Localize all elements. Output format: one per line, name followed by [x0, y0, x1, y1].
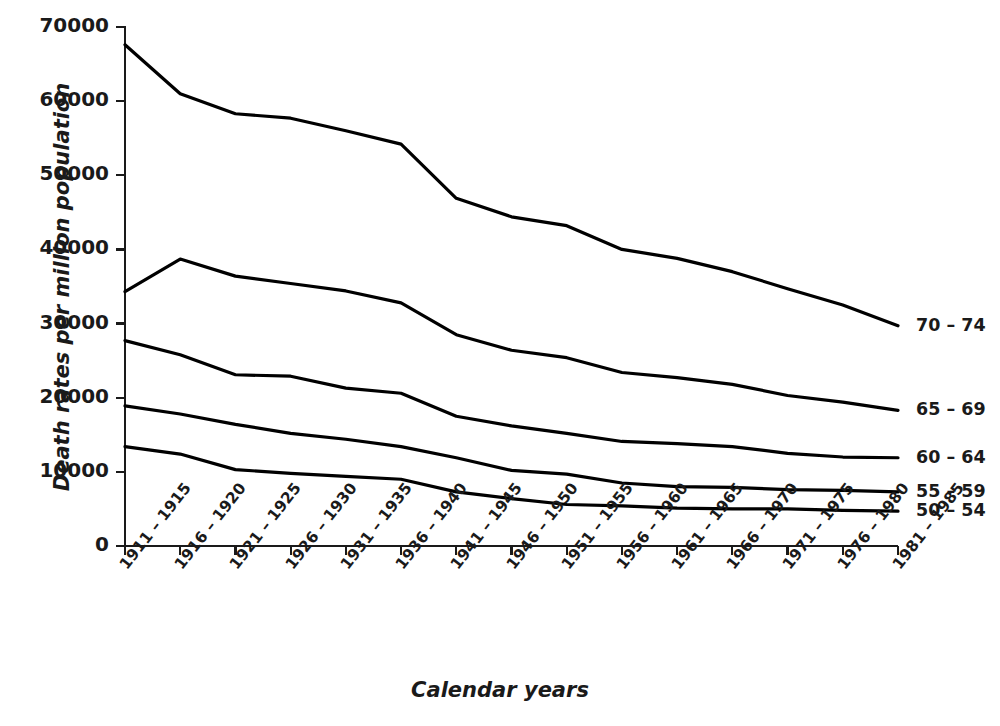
x-axis-title: Calendar years	[0, 678, 1000, 702]
series-label-70-74: 70 – 74	[916, 315, 986, 335]
series-label-55-59: 55 – 59	[916, 481, 986, 501]
y-tick-label-0: 0	[95, 532, 109, 556]
y-tick-label-10000: 10000	[39, 458, 109, 482]
y-tick-label-30000: 30000	[39, 310, 109, 334]
series-line-60-64	[125, 341, 898, 458]
y-tick-label-60000: 60000	[39, 87, 109, 111]
series-label-50-54: 50 – 54	[916, 500, 986, 520]
y-axis-title: Death rates per million population	[50, 47, 74, 527]
line-chart-plot	[0, 0, 1000, 726]
series-label-60-64: 60 – 64	[916, 447, 986, 467]
y-tick-label-70000: 70000	[39, 13, 109, 37]
series-line-65-69	[125, 259, 898, 410]
y-tick-label-20000: 20000	[39, 384, 109, 408]
y-tick-label-50000: 50000	[39, 161, 109, 185]
series-label-65-69: 65 – 69	[916, 399, 986, 419]
chart-figure: Death rates per million population Calen…	[0, 0, 1000, 726]
y-axis-ticks	[116, 27, 125, 546]
series-line-70-74	[125, 45, 898, 326]
y-tick-label-40000: 40000	[39, 235, 109, 259]
